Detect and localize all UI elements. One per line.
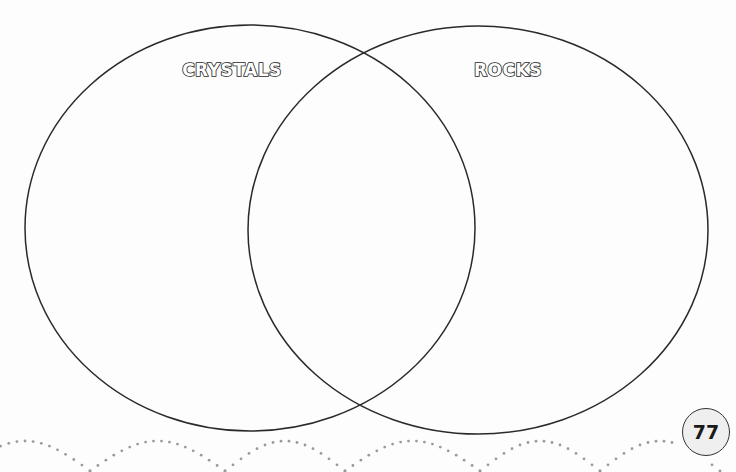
page-number-text: 77 bbox=[693, 421, 719, 443]
venn-circle-crystals bbox=[25, 25, 475, 431]
venn-diagram bbox=[0, 0, 736, 472]
dotted-wave-border bbox=[0, 440, 721, 472]
rocks-label: ROCKS bbox=[474, 62, 542, 79]
venn-circle-rocks bbox=[248, 26, 708, 434]
worksheet-page: CRYSTALS ROCKS 77 bbox=[0, 0, 736, 472]
crystals-label: CRYSTALS bbox=[182, 62, 282, 79]
page-number-badge: 77 bbox=[682, 408, 730, 456]
